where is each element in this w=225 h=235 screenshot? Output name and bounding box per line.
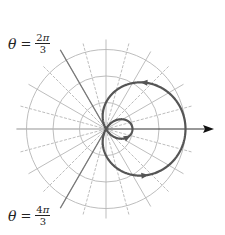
theta-label-4pi-over-3: θ = 4π 3 [8,204,50,227]
grid-radial-line [20,129,106,152]
ray-line [60,50,106,129]
grid-radial-line [106,129,184,174]
grid-radial-line [106,129,192,152]
numerator: 4π [35,204,50,216]
equals-sign: = [20,208,31,223]
theta-symbol: θ [8,208,16,224]
curve-direction-arrow-icon [140,79,147,86]
fraction: 4π 3 [35,204,50,227]
fraction: 2π 3 [35,32,50,55]
pi-symbol: π [43,32,50,43]
denominator: 3 [40,216,46,227]
grid-radial-line [28,129,106,174]
grid-radial-line [28,84,106,129]
pi-symbol: π [43,204,50,215]
grid-radial-line [106,129,151,207]
grid-radial-line [106,106,192,129]
curve-direction-arrow-icon [141,172,149,179]
grid-radial-line [106,84,184,129]
grid-radial-line [20,106,106,129]
grid-radial-line [106,51,151,129]
denominator: 3 [40,44,46,55]
ray-line [60,129,106,208]
theta-symbol: θ [8,36,16,52]
equals-sign: = [20,36,31,51]
numerator: 2π [35,32,50,44]
theta-label-2pi-over-3: θ = 2π 3 [8,32,50,55]
